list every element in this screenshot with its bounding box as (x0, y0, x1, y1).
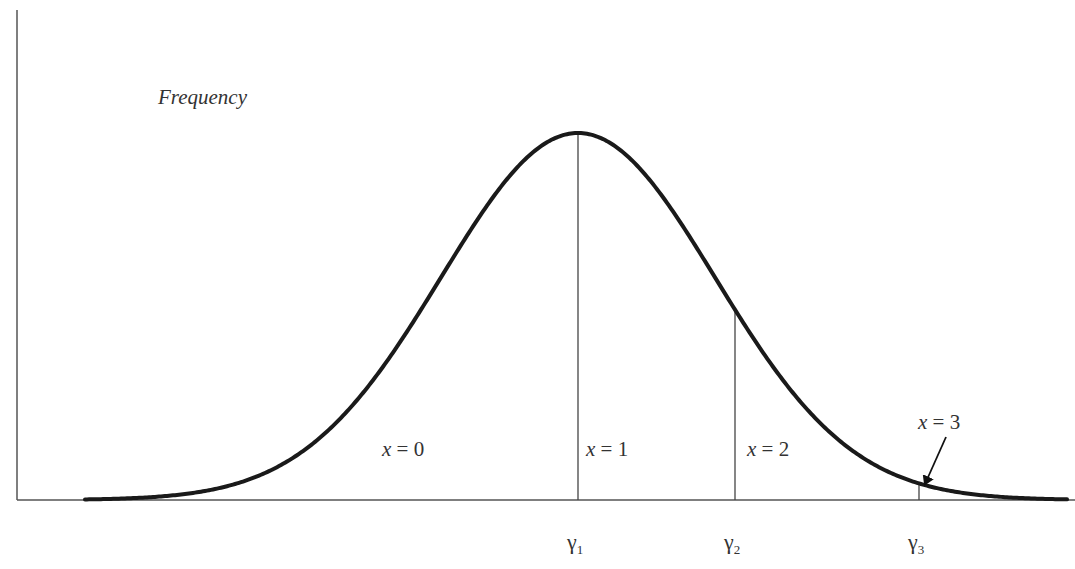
threshold-label-3: γ3 (907, 529, 924, 557)
normal-distribution-figure: Frequency x = 0x = 1x = 2x = 3 γ1γ2γ3 (0, 0, 1075, 569)
region-label-x1: x = 1 (585, 437, 628, 461)
frequency-curve (85, 133, 1067, 499)
region-label-x0: x = 0 (381, 437, 424, 461)
region-label-x3: x = 3 (917, 410, 960, 434)
threshold-label-1: γ1 (566, 529, 583, 557)
region-labels: x = 0x = 1x = 2x = 3 (381, 410, 960, 461)
threshold-label-2: γ2 (723, 529, 740, 557)
threshold-labels: γ1γ2γ3 (566, 529, 924, 557)
x3-pointer-arrow-icon (925, 437, 946, 484)
region-label-x2: x = 2 (746, 437, 789, 461)
y-axis-label: Frequency (157, 85, 248, 109)
